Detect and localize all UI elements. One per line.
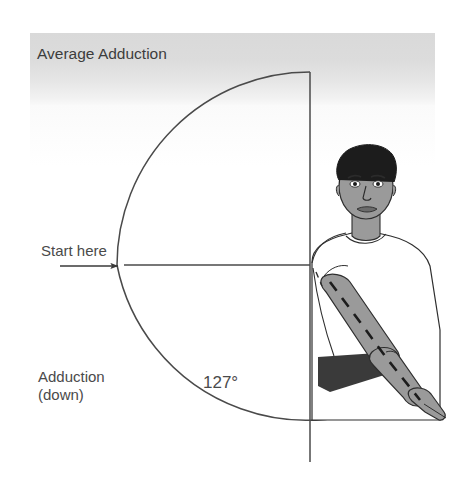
page-title: Average Adduction <box>37 45 167 63</box>
diagram-page: Average Adduction Start here Adduction (… <box>0 0 460 479</box>
ear-right <box>393 186 396 196</box>
mouth <box>357 207 377 212</box>
arc-upper-quadrant <box>117 72 310 265</box>
start-here-label: Start here <box>41 242 107 260</box>
pupil-left <box>353 182 357 186</box>
motion-direction-label: Adduction (down) <box>38 368 105 404</box>
range-of-motion-diagram <box>0 0 460 479</box>
male-figure-illustration <box>312 145 446 421</box>
angle-value-label: 127° <box>203 374 238 392</box>
ear-left <box>336 186 339 196</box>
hair-top <box>337 145 397 182</box>
pupil-right <box>376 182 380 186</box>
